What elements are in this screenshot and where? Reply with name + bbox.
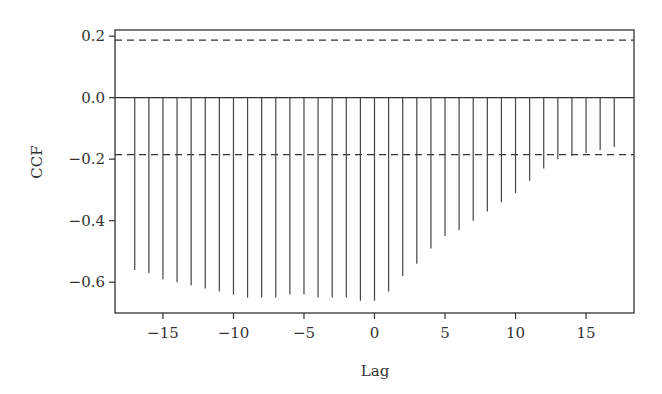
x-tick-label: −5	[293, 324, 315, 342]
y-tick-label: 0.2	[81, 27, 105, 45]
x-tick-label: 15	[577, 324, 596, 342]
y-axis: 0.20.0−0.2−0.4−0.6	[69, 27, 115, 291]
x-tick-label: 0	[370, 324, 380, 342]
x-axis: −15−10−5051015	[147, 313, 595, 342]
x-tick-label: −10	[218, 324, 250, 342]
ccf-bars	[135, 98, 615, 301]
x-axis-title: Lag	[361, 362, 390, 380]
y-tick-label: 0.0	[81, 89, 105, 107]
y-tick-label: −0.2	[69, 150, 105, 168]
y-tick-label: −0.6	[69, 273, 105, 291]
x-tick-label: −15	[147, 324, 179, 342]
x-tick-label: 5	[440, 324, 450, 342]
ccf-chart: −15−10−5051015 0.20.0−0.2−0.4−0.6 Lag CC…	[0, 0, 662, 394]
x-tick-label: 10	[506, 324, 525, 342]
y-axis-title: CCF	[28, 145, 46, 178]
y-tick-label: −0.4	[69, 212, 105, 230]
